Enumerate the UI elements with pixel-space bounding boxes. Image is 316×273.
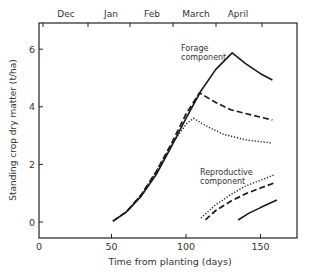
y-tick-label: 0 bbox=[29, 217, 35, 228]
series-line bbox=[113, 53, 272, 221]
series-line bbox=[205, 183, 274, 220]
annotation-forage-line1: Forage bbox=[181, 44, 208, 53]
x-tick-label: 50 bbox=[105, 241, 117, 252]
month-label: April bbox=[228, 9, 249, 19]
y-axis-ticks: 0246 bbox=[29, 44, 43, 228]
annotation-reproductive-line2: component bbox=[200, 177, 245, 186]
month-label: Dec bbox=[57, 9, 74, 19]
data-series bbox=[113, 53, 277, 221]
x-tick-label: 0 bbox=[36, 241, 42, 252]
plot-frame bbox=[39, 23, 297, 238]
chart: 050100150 0246 DecJanFebMarchApril Time … bbox=[0, 0, 316, 273]
y-axis-label: Standing crop dry matter (t/ha) bbox=[8, 59, 18, 200]
annotation-forage-line2: component bbox=[181, 53, 226, 62]
month-label: Feb bbox=[144, 9, 160, 19]
annotation-reproductive-line1: Reproductive bbox=[200, 168, 253, 177]
x-axis-ticks: 050100150 bbox=[36, 234, 270, 252]
month-label: March bbox=[182, 9, 209, 19]
y-tick-label: 6 bbox=[29, 44, 35, 55]
x-tick-label: 150 bbox=[251, 241, 269, 252]
month-label: Jan bbox=[103, 9, 118, 19]
top-axis-month-ticks: DecJanFebMarchApril bbox=[43, 9, 262, 27]
x-tick-label: 100 bbox=[177, 241, 195, 252]
series-line bbox=[238, 200, 277, 220]
y-tick-label: 2 bbox=[29, 159, 35, 170]
y-tick-label: 4 bbox=[29, 101, 35, 112]
x-axis-label: Time from planting (days) bbox=[107, 256, 231, 267]
